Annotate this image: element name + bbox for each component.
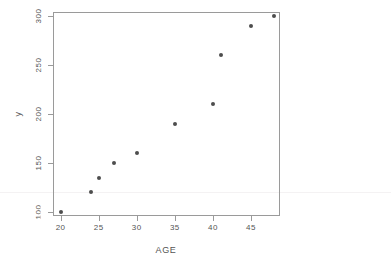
x-axis-tick-label: 45	[246, 223, 256, 232]
y-axis-tick-label: 200	[34, 107, 43, 122]
y-axis-tick-label: 250	[34, 58, 43, 73]
x-axis-label: AGE	[156, 245, 177, 255]
y-axis-tick	[48, 65, 53, 66]
y-axis-tick	[48, 16, 53, 17]
x-axis-tick-label: 40	[208, 223, 218, 232]
x-axis-tick-label: 35	[170, 223, 180, 232]
y-axis-tick-label: 300	[34, 8, 43, 23]
data-point	[59, 210, 63, 214]
data-point	[112, 161, 116, 165]
x-axis-tick	[175, 216, 176, 221]
x-axis-tick	[213, 216, 214, 221]
x-axis-tick-label: 25	[94, 223, 104, 232]
y-axis-label: y	[13, 111, 23, 116]
data-point	[272, 14, 276, 18]
data-point	[219, 53, 223, 57]
data-point	[211, 102, 215, 106]
y-axis-tick	[48, 114, 53, 115]
plot-data-area	[53, 12, 280, 216]
x-axis-tick	[99, 216, 100, 221]
data-point	[249, 24, 253, 28]
x-axis-tick-label: 30	[132, 223, 142, 232]
y-axis-tick	[48, 163, 53, 164]
x-axis-tick	[251, 216, 252, 221]
y-axis-tick-label: 100	[34, 205, 43, 220]
x-axis-tick-label: 20	[56, 223, 66, 232]
data-point	[89, 190, 93, 194]
x-axis-tick	[137, 216, 138, 221]
data-point	[97, 176, 101, 180]
x-axis-tick	[61, 216, 62, 221]
scatter-plot-figure: AGE y 202530354045100150200250300	[0, 0, 391, 269]
y-axis-tick	[48, 212, 53, 213]
y-axis-tick-label: 150	[34, 156, 43, 171]
data-point	[135, 151, 139, 155]
data-point	[173, 122, 177, 126]
